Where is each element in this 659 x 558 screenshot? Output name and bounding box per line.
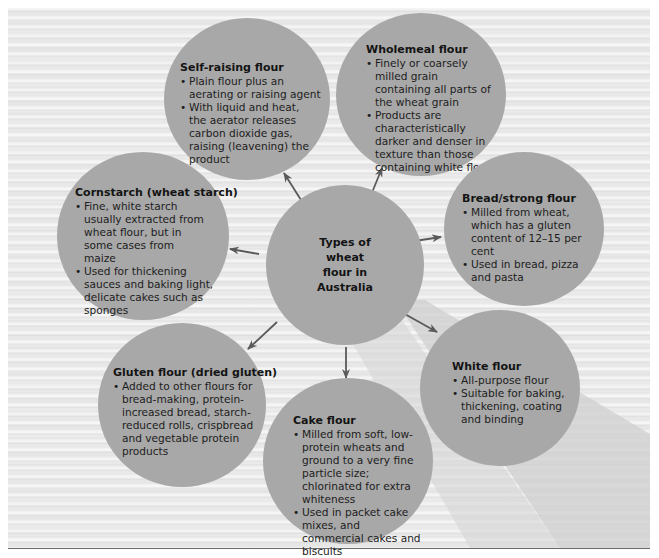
bullet-list: Fine, white starch usually extracted fro… [75, 200, 221, 317]
node-title: Wholemeal flour [366, 43, 494, 57]
arrow-to-self-raising [284, 173, 301, 200]
bullet-item: Used in packet cake mixes, and commercia… [293, 506, 423, 558]
bullet-item: Plain flour plus an aerating or raising … [180, 75, 330, 101]
center-title-line: flour in [306, 265, 384, 280]
bullet-item: With liquid and heat, the aerator releas… [180, 101, 317, 166]
bullet-item: Added to other flours for bread-making, … [113, 380, 261, 458]
node-cornstarch: Cornstarch (wheat starch) Fine, white st… [57, 152, 229, 320]
bullet-item: Used for thickening sauces and baking li… [75, 265, 221, 317]
arrow-to-gluten [248, 322, 277, 349]
node-wholemeal-flour: Wholemeal flour Finely or coarsely mille… [336, 13, 506, 176]
bullet-item: Fine, white starch usually extracted fro… [75, 200, 204, 265]
bullet-item: Finely or coarsely milled grain containi… [366, 57, 494, 109]
center-title: Types of wheat flour in Australia [266, 235, 424, 295]
center-node: Types of wheat flour in Australia [266, 185, 424, 345]
node-self-raising-flour: Self-raising flour Plain flour plus an a… [164, 18, 330, 180]
bullet-item: Used in bread, pizza and pasta [462, 258, 598, 284]
node-title: Bread/strong flour [462, 192, 598, 206]
bullet-item: Products are characteristically darker a… [366, 109, 494, 174]
node-title: Gluten flour (dried gluten) [113, 366, 261, 380]
bullet-list: All-purpose flour Suitable for baking, t… [452, 374, 570, 426]
node-title: Self-raising flour [180, 61, 330, 75]
center-title-line: Types of [306, 235, 384, 250]
node-title: Cake flour [293, 414, 423, 428]
node-gluten-flour: Gluten flour (dried gluten) Added to oth… [98, 323, 266, 487]
center-title-line: Australia [306, 280, 384, 295]
bullet-item: Milled from soft, low-protein wheats and… [293, 428, 423, 506]
arrow-to-cornstarch [230, 249, 259, 254]
node-white-flour: White flour All-purpose flour Suitable f… [420, 310, 580, 466]
bullet-item: Milled from wheat, which has a gluten co… [462, 206, 598, 258]
bullet-list: Finely or coarsely milled grain containi… [366, 57, 494, 174]
bullet-list: Milled from wheat, which has a gluten co… [462, 206, 598, 284]
bullet-list: Added to other flours for bread-making, … [113, 380, 261, 458]
node-bread-strong-flour: Bread/strong flour Milled from wheat, wh… [444, 152, 604, 306]
bullet-list: Plain flour plus an aerating or raising … [180, 75, 330, 166]
bullet-item: All-purpose flour [452, 374, 570, 387]
node-title: Cornstarch (wheat starch) [75, 186, 221, 200]
node-cake-flour: Cake flour Milled from soft, low-protein… [263, 378, 433, 544]
center-title-line: wheat [306, 250, 384, 265]
node-title: White flour [452, 360, 570, 374]
bullet-list: Milled from soft, low-protein wheats and… [293, 428, 423, 558]
bullet-item: Suitable for baking, thickening, coating… [452, 387, 570, 426]
